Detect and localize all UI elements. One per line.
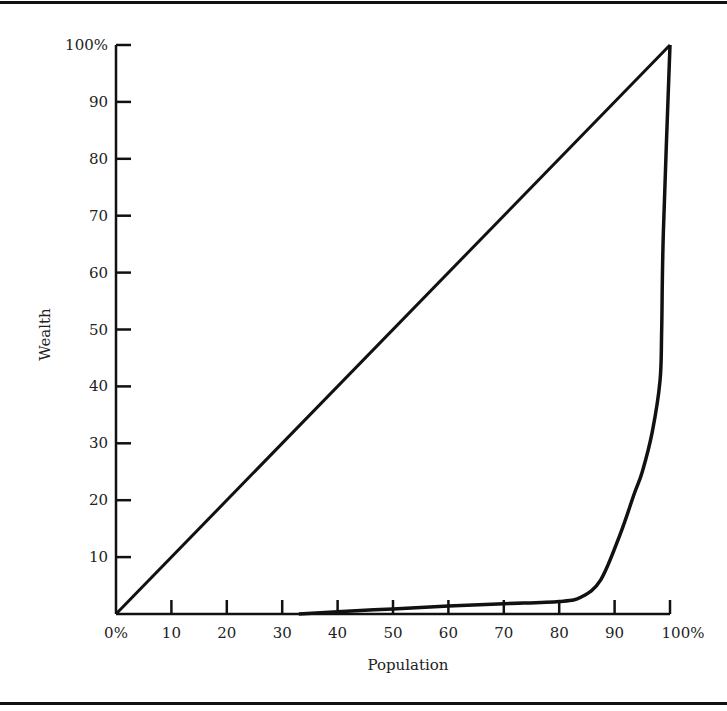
x-tick-label: 70	[494, 624, 513, 642]
lorenz-chart: 102030405060708090100% 0%102030405060708…	[0, 0, 727, 711]
y-tick-label: 80	[89, 150, 108, 168]
x-ticks: 0%102030405060708090100%	[104, 600, 704, 642]
x-tick-label: 50	[383, 624, 402, 642]
y-tick-label: 30	[89, 434, 108, 452]
y-tick-label: 100%	[65, 36, 108, 54]
x-tick-label: 10	[162, 624, 181, 642]
y-tick-label: 70	[89, 207, 108, 225]
equality-line	[116, 45, 670, 614]
y-tick-label: 60	[89, 264, 108, 282]
lorenz-curve	[299, 45, 670, 614]
y-tick-label: 50	[89, 321, 108, 339]
y-ticks: 102030405060708090100%	[65, 36, 131, 566]
y-axis-title: Wealth	[36, 308, 54, 361]
x-tick-label: 0%	[104, 624, 128, 642]
x-tick-label: 20	[217, 624, 236, 642]
series-layer	[116, 45, 670, 614]
x-tick-label: 100%	[662, 624, 705, 642]
y-tick-label: 40	[89, 377, 108, 395]
x-tick-label: 30	[273, 624, 292, 642]
x-tick-label: 80	[550, 624, 569, 642]
y-tick-label: 20	[89, 491, 108, 509]
x-tick-label: 40	[328, 624, 347, 642]
x-axis-title: Population	[367, 656, 448, 674]
y-tick-label: 90	[89, 93, 108, 111]
x-tick-label: 90	[605, 624, 624, 642]
y-tick-label: 10	[89, 548, 108, 566]
x-tick-label: 60	[439, 624, 458, 642]
